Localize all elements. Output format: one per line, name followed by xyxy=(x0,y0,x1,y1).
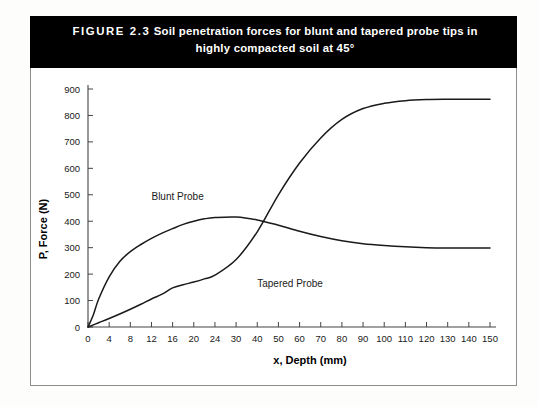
y-tick-label: 800 xyxy=(64,110,80,121)
chart-axes xyxy=(88,85,496,327)
y-tick-label: 900 xyxy=(64,84,80,95)
figure-number: FIGURE 2.3 xyxy=(72,25,150,37)
figure-caption: FIGURE 2.3 Soil penetration forces for b… xyxy=(44,23,506,57)
y-axis-title: P, Force (N) xyxy=(37,199,49,260)
x-tick-label: 50 xyxy=(273,333,284,344)
y-tick-label: 400 xyxy=(64,216,80,227)
chart-series-lines xyxy=(88,99,490,327)
y-tick-label: 100 xyxy=(64,295,80,306)
x-tick-label: 12 xyxy=(146,333,157,344)
x-tick-label: 70 xyxy=(315,333,326,344)
x-axis-title: x, Depth (mm) xyxy=(273,354,347,366)
series-label-tapered-probe: Tapered Probe xyxy=(257,278,323,289)
figure-caption-line2: highly compacted soil at 45° xyxy=(44,40,506,57)
x-tick-label: 60 xyxy=(294,333,305,344)
series-line-tapered-probe xyxy=(88,99,490,327)
figure-caption-line1: Soil penetration forces for blunt and ta… xyxy=(154,25,478,37)
x-tick-label: 120 xyxy=(419,333,435,344)
x-tick-label: 110 xyxy=(398,333,413,344)
y-axis-tick-labels: 0100200300400500600700800900 xyxy=(64,84,80,333)
figure-title-bar: FIGURE 2.3 Soil penetration forces for b… xyxy=(30,16,517,68)
x-tick-label: 4 xyxy=(107,333,112,344)
x-tick-label: 8 xyxy=(128,333,133,344)
x-tick-label: 90 xyxy=(358,333,369,344)
x-tick-label: 0 xyxy=(85,333,90,344)
series-label-blunt-probe: Blunt Probe xyxy=(151,191,204,202)
x-tick-label: 20 xyxy=(189,333,200,344)
chart-plot-area: 0481216202430405060708090100110120130140… xyxy=(31,69,516,385)
y-tick-label: 300 xyxy=(64,242,80,253)
chart-tick-marks xyxy=(88,89,490,327)
x-tick-label: 140 xyxy=(461,333,477,344)
x-tick-label: 130 xyxy=(440,333,456,344)
chart-series-labels: Blunt ProbeTapered Probe xyxy=(151,191,323,289)
x-tick-label: 24 xyxy=(210,333,221,344)
figure-container: FIGURE 2.3 Soil penetration forces for b… xyxy=(0,0,539,407)
x-tick-label: 80 xyxy=(337,333,348,344)
y-tick-label: 0 xyxy=(75,322,80,333)
x-tick-label: 30 xyxy=(231,333,242,344)
y-tick-label: 600 xyxy=(64,163,80,174)
y-tick-label: 700 xyxy=(64,136,80,147)
x-tick-label: 40 xyxy=(252,333,263,344)
line-chart: 0481216202430405060708090100110120130140… xyxy=(31,69,516,385)
x-tick-label: 16 xyxy=(167,333,178,344)
x-tick-label: 150 xyxy=(482,333,498,344)
x-axis-tick-labels: 0481216202430405060708090100110120130140… xyxy=(85,333,498,344)
y-tick-label: 200 xyxy=(64,269,80,280)
series-line-blunt-probe xyxy=(88,217,490,327)
y-tick-label: 500 xyxy=(64,189,80,200)
x-tick-label: 100 xyxy=(376,333,392,344)
